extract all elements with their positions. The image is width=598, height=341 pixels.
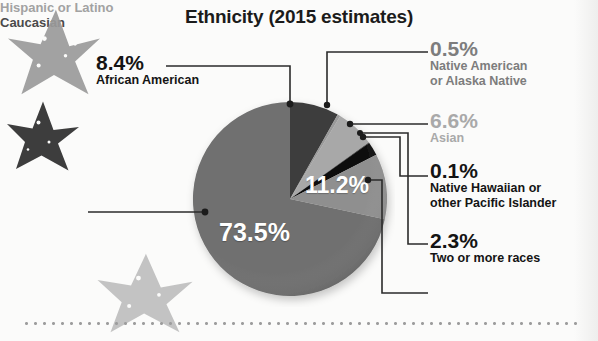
slice-label-hispanic-percent: 11.2%	[305, 172, 369, 199]
star-decoration-mid-left	[4, 100, 82, 172]
callout-asian: 6.6% Asian	[430, 110, 478, 146]
callout-african-american: 8.4% African American	[96, 52, 199, 88]
callout-native-hawaiian: 0.1% Native Hawaiian or other Pacific Is…	[430, 160, 556, 210]
infographic-page: Ethnicity (2015 estimates)	[0, 0, 598, 341]
pie-chart: 73.5% 11.2%	[185, 95, 395, 307]
callout-two-or-more-races-label: Two or more races	[430, 251, 540, 266]
callout-african-american-label: African American	[96, 73, 199, 88]
callout-two-or-more-races-percent: 2.3%	[430, 230, 540, 251]
paper-grain-edge	[574, 0, 598, 341]
callout-native-hawaiian-percent: 0.1%	[430, 160, 556, 181]
callout-native-american-label-line1: Native American	[430, 59, 528, 74]
callout-native-american: 0.5% Native American or Alaska Native	[430, 38, 528, 88]
callout-native-american-percent: 0.5%	[430, 38, 528, 59]
pie-chart-svg	[185, 95, 395, 307]
callout-two-or-more-races: 2.3% Two or more races	[430, 230, 540, 266]
pie-slices	[193, 102, 387, 296]
callout-african-american-percent: 8.4%	[96, 52, 199, 73]
callout-asian-percent: 6.6%	[430, 110, 478, 131]
page-title: Ethnicity (2015 estimates)	[0, 6, 598, 28]
slice-label-caucasian-percent: 73.5%	[219, 218, 290, 247]
bottom-dotted-divider	[22, 322, 578, 325]
callout-asian-label: Asian	[430, 131, 478, 146]
callout-native-american-label-line2: or Alaska Native	[430, 74, 528, 89]
callout-native-hawaiian-label-line1: Native Hawaiian or	[430, 181, 556, 196]
callout-native-hawaiian-label-line2: other Pacific Islander	[430, 196, 556, 211]
